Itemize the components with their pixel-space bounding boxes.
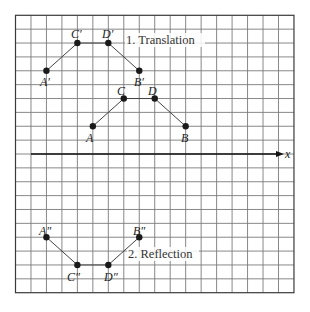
label-C: C [117, 84, 126, 98]
transformation-diagram: x 1. Translation 2. Reflection A B C D A… [0, 0, 310, 312]
label-A-prime: A′ [39, 75, 50, 89]
label-A-double-prime: A″ [38, 224, 52, 238]
label-A: A [85, 131, 94, 145]
label-C-double-prime: C″ [67, 270, 81, 284]
translation-caption: 1. Translation [126, 33, 196, 47]
point-B′ [136, 68, 142, 74]
label-B-double-prime: B″ [133, 224, 146, 238]
label-C-prime: C′ [71, 27, 82, 41]
point-A [90, 123, 96, 129]
label-D-double-prime: D″ [103, 270, 119, 284]
x-axis-arrow-icon [276, 151, 284, 157]
point-B [182, 123, 188, 129]
point-C″ [74, 262, 80, 268]
reflection-caption: 2. Reflection [128, 247, 193, 261]
x-axis: x [31, 147, 291, 161]
x-axis-label: x [284, 147, 291, 161]
label-B: B [181, 131, 189, 145]
point-D″ [105, 262, 111, 268]
point-A′ [43, 68, 49, 74]
label-B-prime: B′ [134, 75, 144, 89]
label-D: D [147, 84, 157, 98]
label-D-prime: D′ [101, 27, 114, 41]
